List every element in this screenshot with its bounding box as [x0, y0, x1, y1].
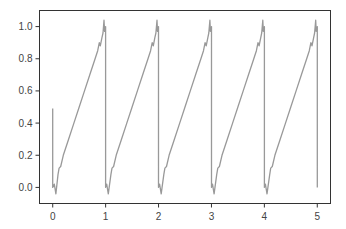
- x-tick-label: 5: [314, 211, 320, 222]
- y-tick-label: 0.6: [19, 85, 33, 96]
- x-tick-label: 2: [156, 211, 162, 222]
- y-tick-label: 0.2: [19, 150, 33, 161]
- line-chart: 012345 0.00.20.40.60.81.0: [0, 0, 346, 229]
- y-tick-label: 0.0: [19, 182, 33, 193]
- x-tick-label: 4: [262, 211, 268, 222]
- x-tick-label: 1: [103, 211, 109, 222]
- x-axis: 012345: [50, 204, 321, 222]
- y-tick-label: 1.0: [19, 21, 33, 32]
- y-tick-label: 0.4: [19, 118, 33, 129]
- plot-area: [53, 20, 318, 194]
- sawtooth-series-line: [53, 20, 318, 194]
- y-axis: 0.00.20.40.60.81.0: [19, 21, 40, 193]
- x-tick-label: 0: [50, 211, 56, 222]
- x-tick-label: 3: [209, 211, 215, 222]
- y-tick-label: 0.8: [19, 53, 33, 64]
